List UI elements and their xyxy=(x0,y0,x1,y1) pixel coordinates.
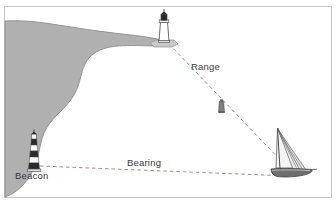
range-label: Range xyxy=(191,61,220,72)
buoy xyxy=(218,99,224,113)
buoy-body xyxy=(219,102,225,113)
beacon-band-3 xyxy=(30,151,39,157)
beacon-band-2 xyxy=(30,145,37,151)
beacon-band-1 xyxy=(31,139,37,145)
lighthouse-tower xyxy=(159,22,169,41)
lighthouse-lantern xyxy=(161,15,167,21)
buoy-waterline xyxy=(218,112,224,113)
buoy-top xyxy=(220,99,223,101)
beacon-label: Beacon xyxy=(15,170,48,181)
bearing-label: Bearing xyxy=(127,157,161,168)
navigation-diagram: Beacon Range Bearing xyxy=(0,0,336,215)
lighthouse-base xyxy=(158,41,169,43)
beacon-lantern xyxy=(32,134,36,139)
beacon-band-5 xyxy=(29,163,40,169)
beacon-band-4 xyxy=(29,157,39,163)
